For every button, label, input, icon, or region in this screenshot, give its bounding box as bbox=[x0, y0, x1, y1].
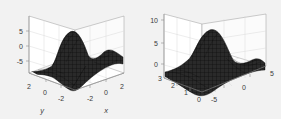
left-plot-xtick-1: 0 bbox=[104, 89, 108, 96]
left-plot-xtick-0: -2 bbox=[87, 95, 93, 102]
right-plot-ztick-1: 5 bbox=[154, 40, 158, 47]
right-plot-ztick-0: 10 bbox=[150, 17, 158, 24]
left-plot-z-axis bbox=[26, 16, 29, 73]
left-plot-xtick-2: 2 bbox=[120, 83, 124, 90]
left-plot-ytick-1: 0 bbox=[43, 89, 47, 96]
right-plot-z-axis bbox=[161, 14, 164, 78]
left-plot-y-axis-label: y bbox=[39, 106, 45, 115]
left-plot-ztick-0: 5 bbox=[19, 28, 23, 35]
right-plot-svg: 10 5 0 3 2 1 0 -5 0 5 bbox=[140, 0, 281, 119]
figure-canvas: 5 0 -5 2 0 -2 -2 0 2 y x bbox=[0, 0, 281, 119]
left-plot-svg: 5 0 -5 2 0 -2 -2 0 2 y x bbox=[0, 0, 140, 119]
right-plot-xtick-0: -5 bbox=[211, 96, 217, 103]
left-plot-ytick-2: -2 bbox=[58, 95, 64, 102]
left-plot-ztick-2: -5 bbox=[17, 58, 23, 65]
left-surface-plot: 5 0 -5 2 0 -2 -2 0 2 y x bbox=[0, 0, 140, 119]
right-plot-ytick-2: 1 bbox=[184, 89, 188, 96]
left-plot-ztick-1: 0 bbox=[19, 43, 23, 50]
right-plot-xtick-2: 5 bbox=[270, 70, 274, 77]
right-surface-plot: 10 5 0 3 2 1 0 -5 0 5 bbox=[140, 0, 281, 119]
right-plot-ytick-1: 2 bbox=[171, 82, 175, 89]
right-plot-ytick-3: 0 bbox=[197, 96, 201, 103]
left-plot-x-axis-label: x bbox=[103, 106, 108, 115]
right-plot-ytick-0: 3 bbox=[158, 75, 162, 82]
right-plot-ztick-2: 0 bbox=[154, 61, 158, 68]
right-plot-xtick-1: 0 bbox=[242, 84, 246, 91]
left-plot-ytick-0: 2 bbox=[27, 83, 31, 90]
